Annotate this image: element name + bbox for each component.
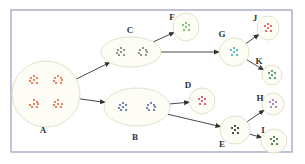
- cluster-point: [231, 127, 233, 129]
- cluster-point: [57, 99, 59, 101]
- cluster-point: [271, 70, 273, 72]
- cluster-point: [233, 47, 235, 49]
- cluster-point: [119, 104, 121, 106]
- cluster-point: [31, 106, 33, 108]
- cluster-point: [125, 109, 127, 111]
- cluster-point: [204, 98, 206, 100]
- cluster-f: [173, 13, 199, 41]
- cluster-point: [182, 24, 184, 26]
- cluster-point: [267, 23, 269, 25]
- cluster-point: [274, 77, 276, 79]
- cluster-point: [57, 75, 59, 77]
- cluster-point: [120, 47, 122, 49]
- cluster-point: [268, 72, 270, 74]
- cluster-outline-b: [104, 88, 170, 126]
- cluster-point: [185, 26, 187, 28]
- cluster-point: [120, 51, 122, 53]
- cluster-point: [185, 22, 187, 24]
- cluster-point: [265, 30, 267, 32]
- cluster-point: [272, 99, 274, 101]
- cluster-point: [145, 54, 147, 56]
- cluster-point: [125, 104, 127, 106]
- cluster-point: [120, 109, 122, 111]
- cluster-point: [60, 77, 62, 79]
- cluster-point: [234, 129, 236, 131]
- cluster-point: [230, 49, 232, 51]
- cluster-point: [150, 102, 152, 104]
- cluster-point: [270, 138, 272, 140]
- cluster-point: [147, 104, 149, 106]
- node-label-g: G: [218, 29, 225, 39]
- node-label-k: K: [255, 56, 262, 66]
- node-label-c: C: [127, 25, 134, 35]
- cluster-point: [53, 104, 55, 106]
- cluster-outline-c: [101, 37, 161, 67]
- node-label-f: F: [169, 12, 175, 22]
- cluster-point: [36, 101, 38, 103]
- cluster-point: [29, 104, 31, 106]
- cluster-point: [117, 49, 119, 51]
- node-label-h: H: [256, 93, 263, 103]
- cluster-point: [237, 127, 239, 129]
- cluster-point: [148, 109, 150, 111]
- node-label-a: A: [40, 125, 47, 135]
- cluster-point: [269, 77, 271, 79]
- cluster-point: [237, 132, 239, 134]
- cluster-point: [188, 24, 190, 26]
- cluster-point: [37, 103, 39, 105]
- node-label-j: J: [253, 13, 258, 23]
- cluster-point: [271, 143, 273, 145]
- cluster-j: [257, 16, 279, 40]
- cluster-c: [101, 37, 161, 67]
- cluster-point: [33, 75, 35, 77]
- cluster-point: [138, 52, 140, 54]
- cluster-point: [61, 79, 63, 81]
- cluster-i: [261, 129, 287, 153]
- cluster-point: [116, 52, 118, 54]
- cluster-point: [236, 54, 238, 56]
- cluster-point: [236, 49, 238, 51]
- cluster-point: [146, 107, 148, 109]
- cluster-point: [232, 132, 234, 134]
- cluster-point: [267, 27, 269, 29]
- cluster-point: [122, 102, 124, 104]
- cluster-point: [231, 54, 233, 56]
- cluster-point: [123, 49, 125, 51]
- cluster-point: [270, 25, 272, 27]
- cluster-point: [33, 99, 35, 101]
- cluster-point: [204, 103, 206, 105]
- cluster-point: [275, 106, 277, 108]
- cluster-point: [122, 106, 124, 108]
- cluster-b: [104, 88, 170, 126]
- cluster-point: [275, 101, 277, 103]
- node-label-b: B: [132, 132, 138, 142]
- cluster-point: [271, 74, 273, 76]
- cluster-point: [198, 98, 200, 100]
- cluster-tree-diagram: A B C D E F G H I J K: [0, 0, 305, 164]
- cluster-point: [36, 106, 38, 108]
- cluster-point: [201, 100, 203, 102]
- cluster-point: [153, 109, 155, 111]
- cluster-point: [234, 125, 236, 127]
- cluster-point: [36, 77, 38, 79]
- cluster-point: [188, 29, 190, 31]
- cluster-point: [60, 106, 62, 108]
- cluster-point: [36, 82, 38, 84]
- cluster-point: [55, 82, 57, 84]
- cluster-point: [30, 77, 32, 79]
- cluster-point: [272, 103, 274, 105]
- cluster-point: [264, 25, 266, 27]
- cluster-k: [262, 65, 282, 85]
- cluster-point: [33, 103, 35, 105]
- cluster-point: [31, 82, 33, 84]
- cluster-point: [140, 54, 142, 56]
- cluster-point: [57, 103, 59, 105]
- cluster-point: [53, 80, 55, 82]
- cluster-g: [219, 38, 249, 66]
- cluster-point: [61, 103, 63, 105]
- cluster-d: [189, 88, 215, 114]
- cluster-outline-a: [12, 61, 80, 127]
- node-label-d: D: [185, 80, 192, 90]
- cluster-point: [54, 101, 56, 103]
- cluster-point: [269, 101, 271, 103]
